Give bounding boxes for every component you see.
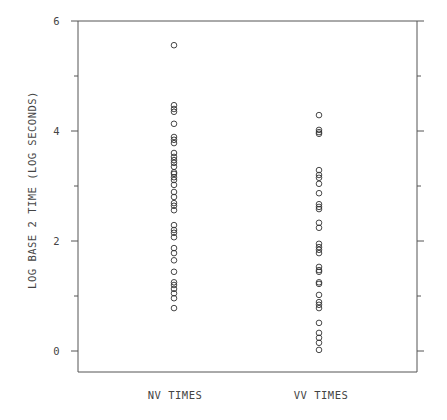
data-point-marker xyxy=(316,305,322,311)
data-point-marker xyxy=(171,258,177,264)
data-points xyxy=(171,42,322,352)
y-tick-label-0: 0 xyxy=(53,345,60,357)
data-point-marker xyxy=(171,121,177,127)
data-point-marker xyxy=(171,42,177,48)
y-tick-label-4: 4 xyxy=(53,125,60,137)
data-point-marker xyxy=(316,320,322,326)
plot-frame xyxy=(78,21,417,372)
y-tick-label-2: 2 xyxy=(53,235,60,247)
data-point-marker xyxy=(171,269,177,275)
data-point-marker xyxy=(171,305,177,311)
data-point-marker xyxy=(171,164,177,170)
scatter-chart: 0 2 4 6 LOG BASE 2 TIME (LOG SECONDS) NV… xyxy=(0,0,447,420)
data-point-marker xyxy=(316,250,322,256)
data-point-marker xyxy=(316,181,322,187)
data-point-marker xyxy=(316,190,322,196)
data-point-marker xyxy=(316,347,322,353)
data-point-marker xyxy=(171,140,177,146)
y-tick-label-6: 6 xyxy=(53,15,60,27)
data-point-marker xyxy=(316,112,322,118)
y-axis-ticks xyxy=(71,21,424,351)
x-category-label-nv: NV TIMES xyxy=(148,389,203,401)
data-point-marker xyxy=(316,292,322,298)
x-category-label-vv: VV TIMES xyxy=(294,389,349,401)
y-axis-title: LOG BASE 2 TIME (LOG SECONDS) xyxy=(26,91,38,289)
